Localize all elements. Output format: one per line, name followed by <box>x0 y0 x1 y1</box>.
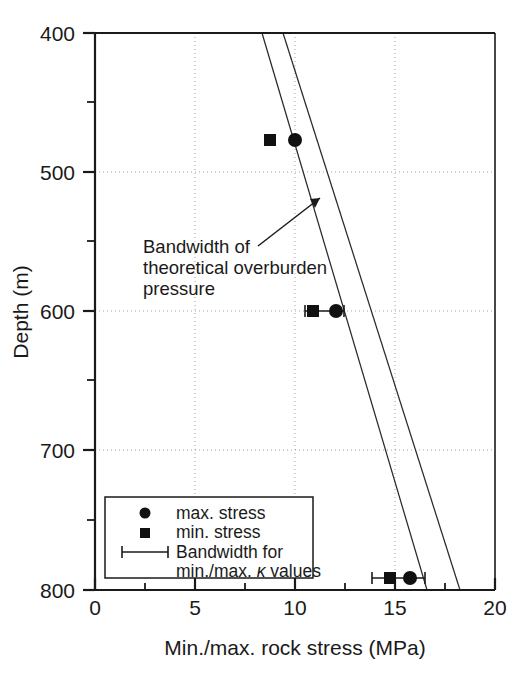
data-point-min-stress-790m <box>384 572 396 584</box>
legend-label-min-stress: min. stress <box>176 522 261 542</box>
xtick-label-15: 15 <box>383 596 406 619</box>
annotation-line-2: theoretical overburden <box>143 257 327 278</box>
y-axis-ticks <box>83 33 95 590</box>
data-point-max-stress-600m <box>329 304 343 318</box>
ytick-label-600: 600 <box>40 300 75 323</box>
error-bar-790m <box>372 572 425 584</box>
y-axis-tick-labels: 400 500 600 700 800 <box>40 22 75 602</box>
legend-marker-circle-icon <box>140 508 151 519</box>
figure-container: 0 5 10 15 20 400 500 600 700 800 Min./ma… <box>0 0 524 674</box>
xtick-label-10: 10 <box>283 596 306 619</box>
ytick-label-500: 500 <box>40 161 75 184</box>
annotation-arrow-line <box>258 198 320 246</box>
legend-marker-square-icon <box>140 528 150 538</box>
data-point-min-stress-600m <box>307 305 319 317</box>
error-bars <box>305 305 425 584</box>
annotation-arrow-head-icon <box>310 198 320 208</box>
annotation-line-3: pressure <box>143 278 215 299</box>
legend-label-bandwidth-line2: min./max. κ values <box>176 561 321 581</box>
x-axis-title: Min./max. rock stress (MPa) <box>164 636 425 659</box>
annotation-line-1: Bandwidth of <box>143 236 251 257</box>
bandwidth-annotation: Bandwidth of theoretical overburden pres… <box>143 198 327 299</box>
y-axis-title: Depth (m) <box>9 265 32 358</box>
legend-label-max-stress: max. stress <box>176 503 266 523</box>
xtick-label-5: 5 <box>189 596 201 619</box>
ytick-label-400: 400 <box>40 22 75 45</box>
data-point-max-stress-790m <box>403 571 417 585</box>
xtick-label-0: 0 <box>89 596 101 619</box>
ytick-label-700: 700 <box>40 439 75 462</box>
data-point-max-stress-480m <box>288 133 302 147</box>
rock-stress-depth-chart: 0 5 10 15 20 400 500 600 700 800 Min./ma… <box>0 0 524 674</box>
x-axis-tick-labels: 0 5 10 15 20 <box>89 596 507 619</box>
xtick-label-20: 20 <box>483 596 506 619</box>
legend-label-bandwidth-line1: Bandwidth for <box>176 542 283 562</box>
data-point-min-stress-480m <box>264 134 276 146</box>
legend-kappa-pre: min./max. <box>176 561 257 581</box>
legend: max. stress min. stress Bandwidth for mi… <box>105 497 321 581</box>
ytick-label-800: 800 <box>40 579 75 602</box>
legend-kappa-post: values <box>265 561 321 581</box>
